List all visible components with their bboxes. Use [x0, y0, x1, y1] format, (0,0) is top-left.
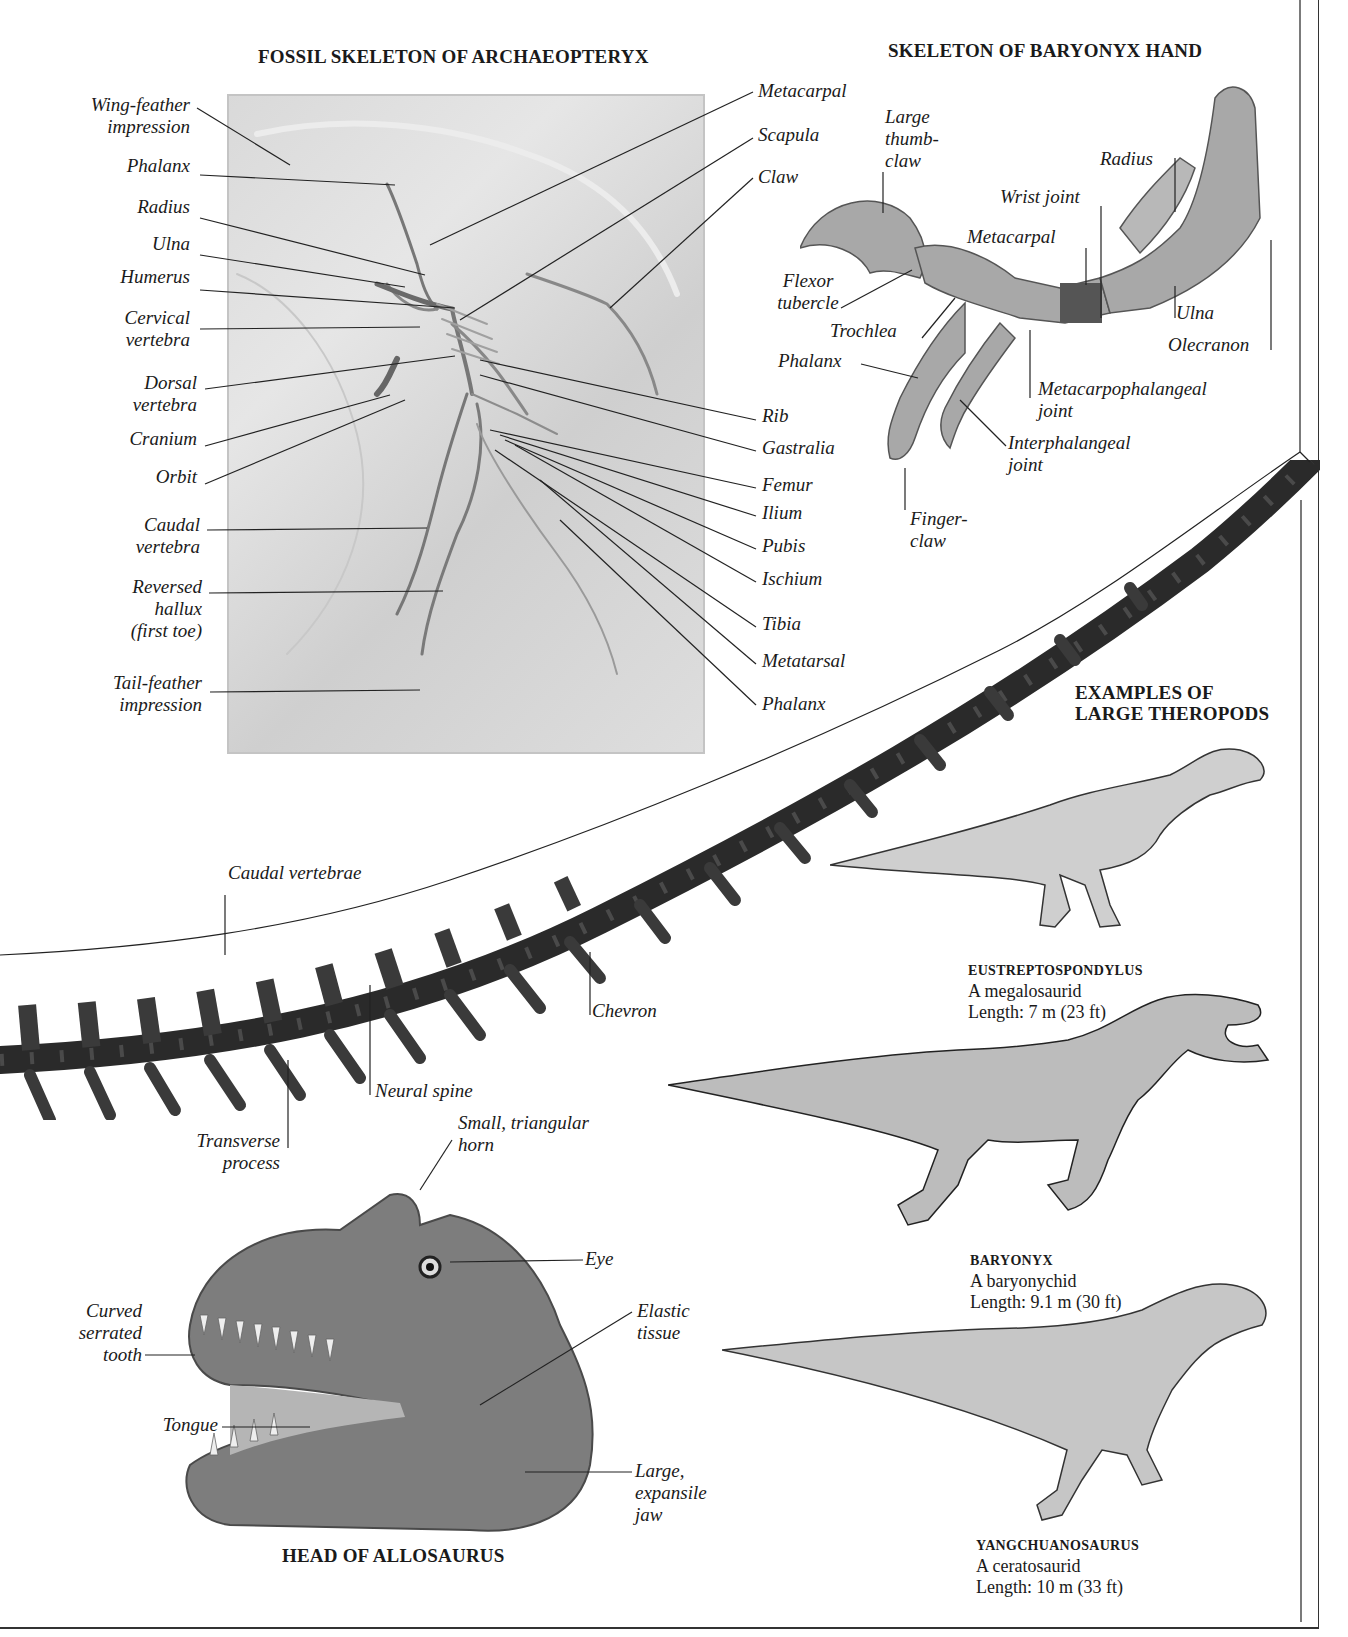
label-humerus: Humerus: [40, 266, 190, 288]
allosaurus-head-art: [170, 1185, 610, 1545]
label-olecranon: Olecranon: [1168, 334, 1249, 356]
label-cervical-vertebra: Cervical vertebra: [40, 307, 190, 351]
label-rib: Rib: [762, 405, 788, 427]
label-small-triangular-horn: Small, triangular horn: [458, 1112, 589, 1156]
label-neural-spine: Neural spine: [375, 1080, 473, 1102]
baryonyx-illustration: [668, 990, 1278, 1250]
yangchuanosaurus-name: YANGCHUANOSAURUS: [976, 1535, 1139, 1556]
yangchuanosaurus-family: A ceratosaurid: [976, 1556, 1139, 1577]
yangchuanosaurus-illustration: [722, 1280, 1282, 1530]
label-ulna: Ulna: [40, 233, 190, 255]
yangchuanosaurus-caption: YANGCHUANOSAURUS A ceratosaurid Length: …: [976, 1535, 1139, 1598]
label-trochlea: Trochlea: [830, 320, 897, 342]
label-caudal-vertebrae: Caudal vertebrae: [228, 862, 362, 884]
baryonyx-hand-title: SKELETON OF BARYONYX HAND: [888, 40, 1202, 62]
label-ulna-hand: Ulna: [1176, 302, 1214, 324]
label-phalanx-hand: Phalanx: [778, 350, 841, 372]
label-radius: Radius: [40, 196, 190, 218]
wrist-joint-block: [1060, 283, 1102, 323]
theropods-title: EXAMPLES OF LARGE THEROPODS: [1075, 682, 1269, 724]
label-transverse-process: Transverse process: [150, 1130, 280, 1174]
label-radius-hand: Radius: [1100, 148, 1153, 170]
label-eye: Eye: [585, 1248, 613, 1270]
yangchuanosaurus-length: Length: 10 m (33 ft): [976, 1577, 1139, 1598]
label-wing-feather-impression: Wing-feather impression: [40, 94, 190, 138]
allosaurus-head-title: HEAD OF ALLOSAURUS: [282, 1545, 505, 1567]
label-phalanx-left: Phalanx: [40, 155, 190, 177]
label-wrist-joint: Wrist joint: [1000, 186, 1080, 208]
label-claw: Claw: [758, 166, 798, 188]
eustreptospondylus-illustration: [830, 735, 1280, 935]
label-elastic-tissue: Elastic tissue: [637, 1300, 690, 1344]
label-chevron: Chevron: [592, 1000, 657, 1022]
eustreptospondylus-name: EUSTREPTOSPONDYLUS: [968, 960, 1143, 981]
label-flexor-tubercle: Flexor tubercle: [758, 270, 858, 314]
label-cranium: Cranium: [40, 428, 197, 450]
label-metacarpophalangeal-joint: Metacarpophalangeal joint: [1038, 378, 1207, 422]
label-tongue: Tongue: [100, 1414, 218, 1436]
page-border-bottom: [0, 1627, 1319, 1629]
label-text: Wing-feather impression: [91, 94, 190, 137]
label-large-thumb-claw: Large thumb- claw: [885, 106, 939, 172]
label-large-expansile-jaw: Large, expansile jaw: [635, 1460, 707, 1526]
baryonyx-name: BARYONYX: [970, 1250, 1121, 1271]
label-dorsal-vertebra: Dorsal vertebra: [40, 372, 197, 416]
archaeopteryx-title: FOSSIL SKELETON OF ARCHAEOPTERYX: [258, 46, 649, 68]
label-curved-serrated-tooth: Curved serrated tooth: [40, 1300, 142, 1366]
label-metacarpal-hand: Metacarpal: [967, 226, 1056, 248]
